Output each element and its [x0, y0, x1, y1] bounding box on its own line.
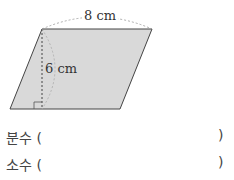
decimal-answer-close: ) [218, 154, 223, 170]
fraction-answer-close: ) [218, 127, 223, 143]
fraction-answer-label: 분수 ( [6, 127, 42, 147]
decimal-answer-label: 소수 ( [6, 154, 42, 174]
height-label: 6 cm [45, 61, 77, 76]
base-label: 8 cm [82, 8, 118, 23]
